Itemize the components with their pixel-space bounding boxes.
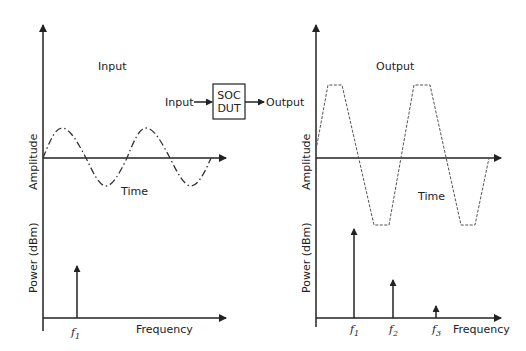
output-clipped-wave (316, 85, 489, 225)
output-time-label: Time (417, 190, 445, 203)
output-panel-title: Output (376, 60, 415, 73)
input-amplitude-label: Amplitude (27, 133, 40, 190)
output-f3-label: f3 (431, 323, 441, 338)
input-panel-title: Input (98, 60, 127, 73)
input-panel: Input Time Amplitude f1 Frequency Power … (27, 25, 226, 341)
output-f2-label: f2 (388, 323, 398, 338)
output-f1-label: f1 (349, 323, 359, 338)
dut-line2: DUT (217, 102, 241, 115)
input-f1-label: f1 (70, 326, 80, 341)
output-amplitude-label: Amplitude (300, 133, 313, 190)
block-input-label: Input (165, 96, 194, 109)
output-frequency-label: Frequency (453, 323, 510, 336)
soc-dut-diagram: Input Time Amplitude f1 Frequency Power … (0, 0, 526, 351)
input-time-label: Time (120, 185, 148, 198)
input-frequency-label: Frequency (136, 323, 193, 336)
output-panel: Output Time Amplitude f1 f2 f3 Frequency… (300, 25, 510, 338)
input-power-label: Power (dBm) (27, 222, 40, 293)
block-output-label: Output (266, 96, 305, 109)
soc-dut-block: Input SOC DUT Output (165, 84, 305, 119)
dut-line1: SOC (217, 89, 241, 102)
input-sine-wave (43, 128, 211, 186)
output-power-label: Power (dBm) (300, 222, 313, 293)
